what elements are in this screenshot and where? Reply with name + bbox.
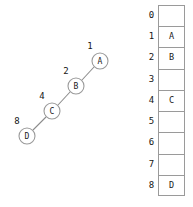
slot-cell-8[interactable]: D [158, 175, 185, 196]
node-a[interactable]: A1 [87, 41, 108, 69]
edge-c-b [58, 92, 70, 105]
slot-index-7: 7 [145, 154, 158, 175]
slot-index-6: 6 [145, 132, 158, 153]
slot-cell-2[interactable]: B [158, 47, 185, 68]
slot-row: 7 [145, 154, 185, 175]
slot-table: 01A2B34C5678D [145, 5, 185, 196]
chain-diagram: A1B2C4D8 [0, 0, 140, 207]
node-b[interactable]: B2 [63, 66, 84, 94]
slot-cell-3[interactable] [158, 69, 185, 90]
node-d-label: D [25, 132, 30, 141]
slot-row: 2B [145, 47, 185, 68]
chain-diagram-canvas: A1B2C4D8 [0, 0, 140, 207]
slot-cell-7[interactable] [158, 154, 185, 175]
slot-row: 1A [145, 26, 185, 47]
node-b-label: B [74, 82, 79, 91]
slot-row: 8D [145, 175, 185, 196]
node-c-index-label: 4 [39, 91, 44, 101]
slot-cell-5[interactable] [158, 111, 185, 132]
slot-index-5: 5 [145, 111, 158, 132]
node-c-label: C [50, 107, 55, 116]
slot-cell-1[interactable]: A [158, 26, 185, 47]
slot-row: 4C [145, 90, 185, 111]
slot-cell-0[interactable] [158, 5, 185, 26]
slot-cell-4[interactable]: C [158, 90, 185, 111]
node-c[interactable]: C4 [39, 91, 60, 119]
slot-cell-6[interactable] [158, 132, 185, 153]
slot-index-0: 0 [145, 5, 158, 26]
slot-index-1: 1 [145, 26, 158, 47]
slot-row: 3 [145, 69, 185, 90]
node-a-label: A [98, 57, 103, 66]
slot-index-4: 4 [145, 90, 158, 111]
edge-d-c [33, 117, 46, 130]
node-a-index-label: 1 [87, 41, 92, 51]
node-b-index-label: 2 [63, 66, 68, 76]
node-group: A1B2C4D8 [14, 41, 108, 144]
slot-row: 5 [145, 111, 185, 132]
slot-row: 0 [145, 5, 185, 26]
slot-index-3: 3 [145, 69, 158, 90]
slot-index-2: 2 [145, 47, 158, 68]
edge-b-a [82, 67, 94, 80]
node-d-index-label: 8 [14, 116, 19, 126]
node-d[interactable]: D8 [14, 116, 35, 144]
slot-index-8: 8 [145, 175, 158, 196]
slot-row: 6 [145, 132, 185, 153]
